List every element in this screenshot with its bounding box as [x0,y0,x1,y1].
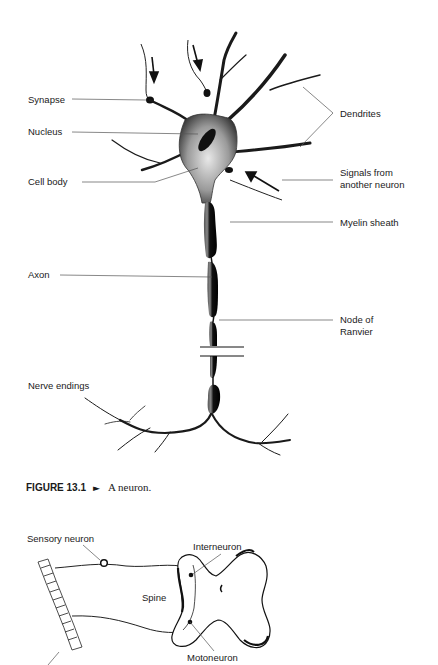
label-nucleus: Nucleus [28,126,62,138]
label-nerve-endings: Nerve endings [28,380,89,392]
label-signals: Signals from another neuron [340,167,404,190]
label-interneuron: Interneuron [193,541,242,553]
muscle-shape [38,559,82,650]
label-cell-body-text: Cell body [28,176,68,188]
label-myelin-sheath: Myelin sheath [340,217,399,229]
label-spine: Spine [142,592,166,604]
label-signals-line1: Signals from [340,167,404,179]
caption-text: A neuron. [108,481,151,493]
label-node-line1: Node of [340,314,373,326]
label-node-of-ranvier: Node of Ranvier [340,314,373,337]
label-dendrites: Dendrites [340,108,381,120]
axon [204,202,220,414]
nerve-endings [85,398,290,455]
axon-break-mark [200,347,244,356]
reflex-arc-diagram [38,545,270,665]
sensory-neuron-body [101,560,108,567]
figure-caption: FIGURE 13.1►A neuron. [26,481,151,493]
label-synapse: Synapse [28,94,65,106]
interneuron-body [189,573,194,578]
label-sensory-neuron: Sensory neuron [27,533,94,545]
label-signals-line2: another neuron [340,179,404,191]
label-axon: Axon [28,269,50,281]
cell-body-shape [179,114,237,203]
caption-arrow-icon: ► [93,483,100,493]
spinal-cord-shape [172,552,270,647]
figure-number: FIGURE 13.1 [26,482,86,493]
label-motoneuron: Motoneuron [187,652,238,664]
label-node-line2: Ranvier [340,326,373,338]
